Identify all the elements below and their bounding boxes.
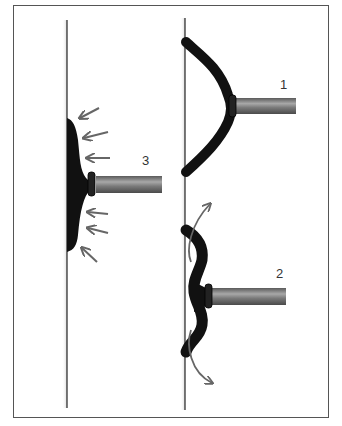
suction-cup-flat [67, 118, 162, 252]
collar-2 [205, 284, 212, 308]
arrow-icon [88, 212, 108, 214]
label-3: 3 [142, 153, 149, 168]
collar-1 [229, 95, 236, 117]
diagram-canvas [0, 0, 342, 426]
arrow-icon [84, 132, 108, 138]
stem-2 [212, 288, 286, 305]
stem-3 [96, 176, 162, 193]
label-2: 2 [276, 266, 283, 281]
arrow-icon [82, 248, 97, 262]
suction-cup-wavy [186, 230, 286, 352]
arrow-icon [80, 108, 99, 118]
left-wall [62, 20, 67, 408]
collar-3 [88, 172, 95, 196]
arrow-icon [88, 228, 108, 233]
label-1: 1 [280, 77, 287, 92]
stem-1 [234, 98, 296, 114]
suction-cup-arched [186, 42, 296, 172]
